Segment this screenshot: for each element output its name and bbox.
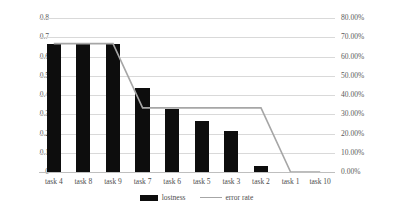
bar-slot bbox=[39, 18, 69, 172]
combo-chart: 0.80.70.60.50.40.30.20.10 80.00%70.00%60… bbox=[0, 0, 393, 213]
bar-slot bbox=[246, 18, 276, 172]
legend-line-swatch-icon bbox=[200, 197, 222, 198]
x-axis-tick-label: task 6 bbox=[157, 175, 187, 189]
y-axis-right-tick: 20.00% bbox=[341, 130, 364, 138]
plot-area bbox=[39, 18, 335, 172]
x-axis-tick-label: task 4 bbox=[39, 175, 69, 189]
bar bbox=[76, 44, 90, 172]
x-axis-tick-label: task 10 bbox=[305, 175, 335, 189]
bar bbox=[224, 131, 238, 172]
bar-slot bbox=[276, 18, 306, 172]
x-axis-tick-label: task 5 bbox=[187, 175, 217, 189]
bar-slot bbox=[157, 18, 187, 172]
legend-item-lostness: lostness bbox=[140, 194, 186, 202]
x-axis-tick-label: task 8 bbox=[69, 175, 99, 189]
x-axis-tick-label: task 3 bbox=[217, 175, 247, 189]
bar bbox=[195, 121, 209, 172]
bar bbox=[165, 109, 179, 172]
y-axis-right-tick: 60.00% bbox=[341, 53, 364, 61]
legend-label-error-rate: error rate bbox=[226, 194, 254, 202]
y-axis-right-tick: 30.00% bbox=[341, 110, 364, 118]
bar bbox=[135, 88, 149, 172]
y-axis-right-tick: 80.00% bbox=[341, 14, 364, 22]
chart-legend: lostness error rate bbox=[0, 194, 393, 202]
bar-slot bbox=[305, 18, 335, 172]
legend-label-lostness: lostness bbox=[162, 194, 186, 202]
bar-slot bbox=[217, 18, 247, 172]
bar bbox=[106, 44, 120, 172]
y-axis-right-tick: 0.00% bbox=[341, 168, 360, 176]
x-axis-tick-label: task 1 bbox=[276, 175, 306, 189]
legend-item-error-rate: error rate bbox=[200, 194, 254, 202]
bar-series-lostness bbox=[39, 18, 335, 172]
bar-slot bbox=[69, 18, 99, 172]
gridline bbox=[39, 172, 335, 173]
y-axis-right-tick: 10.00% bbox=[341, 149, 364, 157]
bar bbox=[47, 44, 61, 172]
y-axis-right-tick: 50.00% bbox=[341, 72, 364, 80]
x-axis-category-labels: task 4task 8task 9task 7task 6task 5task… bbox=[39, 175, 335, 189]
x-axis-tick-label: task 2 bbox=[246, 175, 276, 189]
bar bbox=[254, 166, 268, 172]
bar-slot bbox=[128, 18, 158, 172]
x-axis-tick-label: task 7 bbox=[128, 175, 158, 189]
y-axis-right-tick: 40.00% bbox=[341, 91, 364, 99]
bar-slot bbox=[98, 18, 128, 172]
y-axis-right-tick: 70.00% bbox=[341, 33, 364, 41]
legend-bar-swatch-icon bbox=[140, 195, 158, 201]
x-axis-tick-label: task 9 bbox=[98, 175, 128, 189]
bar-slot bbox=[187, 18, 217, 172]
